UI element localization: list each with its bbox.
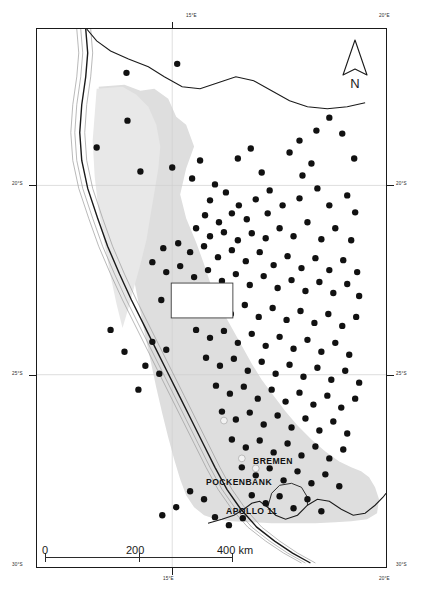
locality-point	[276, 334, 282, 340]
locality-point	[243, 444, 249, 450]
locality-point	[276, 225, 282, 231]
locality-point	[344, 192, 350, 198]
locality-point	[135, 386, 141, 392]
locality-point	[215, 254, 221, 260]
locality-point	[173, 504, 179, 510]
locality-point	[318, 236, 324, 242]
locality-point	[221, 328, 227, 334]
site-label-bremen: BREMEN	[253, 456, 293, 466]
grat-label-left-30S: 30°S	[12, 562, 23, 567]
locality-point	[175, 240, 181, 246]
locality-point	[187, 249, 193, 255]
locality-point	[221, 229, 227, 235]
site-label-pockenbank: POCKENBANK	[206, 477, 272, 487]
locality-point	[269, 305, 275, 311]
locality-point	[257, 437, 263, 443]
locality-point	[311, 320, 317, 326]
scale-label-200: 200	[126, 544, 144, 556]
grat-label-top-15E: 15°E	[186, 13, 197, 18]
locality-point	[336, 483, 342, 489]
locality-point	[124, 117, 130, 123]
locality-point	[274, 285, 280, 291]
grat-label-right-20S: 20°S	[396, 181, 407, 186]
locality-point	[226, 522, 232, 528]
locality-point	[207, 197, 213, 203]
locality-point	[255, 395, 261, 401]
locality-point	[137, 168, 143, 174]
locality-point	[298, 265, 304, 271]
locality-point	[156, 371, 162, 377]
locality-point	[261, 273, 267, 279]
locality-point	[216, 219, 222, 225]
locality-point	[284, 440, 290, 446]
locality-point	[158, 297, 164, 303]
north-arrow: N	[338, 38, 372, 94]
tick-right-25S	[387, 375, 394, 376]
locality-point	[283, 317, 289, 323]
locality-point	[197, 157, 203, 163]
grat-label-right-25S: 25°S	[396, 371, 407, 376]
locality-point	[314, 365, 320, 371]
locality-point	[308, 160, 314, 166]
locality-point	[270, 262, 276, 268]
locality-point	[326, 267, 332, 273]
locality-point	[316, 427, 322, 433]
north-arrow-letter: N	[338, 76, 372, 91]
locality-point	[304, 219, 310, 225]
locality-point	[318, 349, 324, 355]
grat-label-bottom-20E: 20°E	[379, 576, 390, 581]
locality-point	[296, 389, 302, 395]
north-arrow-icon	[338, 38, 372, 78]
locality-point	[280, 477, 286, 483]
locality-point	[241, 383, 247, 389]
locality-point	[272, 371, 278, 377]
locality-point	[236, 202, 242, 208]
locality-point	[330, 418, 336, 424]
locality-point	[142, 363, 148, 369]
locality-point	[207, 233, 213, 239]
locality-point	[296, 195, 302, 201]
locality-point	[304, 337, 310, 343]
locality-point	[342, 368, 348, 374]
locality-point	[212, 181, 218, 187]
locality-point	[248, 145, 254, 151]
north-arrow-glyph	[343, 40, 367, 75]
locality-point	[169, 164, 175, 170]
locality-point	[326, 202, 332, 208]
scale-bar: 0 200 400 km	[45, 548, 233, 564]
locality-point	[302, 415, 308, 421]
locality-point	[286, 362, 292, 368]
locality-point	[231, 356, 237, 362]
locality-point	[242, 302, 248, 308]
locality-point	[201, 496, 207, 502]
locality-point	[294, 468, 300, 474]
locality-point	[149, 259, 155, 265]
locality-point	[193, 327, 199, 333]
locality-point	[160, 245, 166, 251]
locality-point	[348, 237, 354, 243]
locality-point	[235, 340, 241, 346]
locality-point	[356, 293, 362, 299]
locality-point	[123, 70, 129, 76]
grat-label-bottom-15E: 15°E	[163, 576, 174, 581]
locality-point	[201, 243, 207, 249]
locality-point	[149, 339, 155, 345]
locality-point	[304, 496, 310, 502]
locality-point	[189, 175, 195, 181]
locality-point	[263, 343, 269, 349]
locality-point	[229, 210, 235, 216]
locality-point	[325, 311, 331, 317]
locality-point	[259, 359, 265, 365]
locality-point	[163, 347, 169, 353]
locality-point	[339, 130, 345, 136]
locality-point	[227, 390, 233, 396]
locality-point	[326, 455, 332, 461]
locality-point	[229, 247, 235, 253]
locality-point	[203, 355, 209, 361]
locality-point	[244, 216, 250, 222]
locality-point	[249, 331, 255, 337]
locality-point	[163, 269, 169, 275]
locality-point	[247, 409, 253, 415]
locality-point	[191, 274, 197, 280]
locality-point	[279, 202, 285, 208]
